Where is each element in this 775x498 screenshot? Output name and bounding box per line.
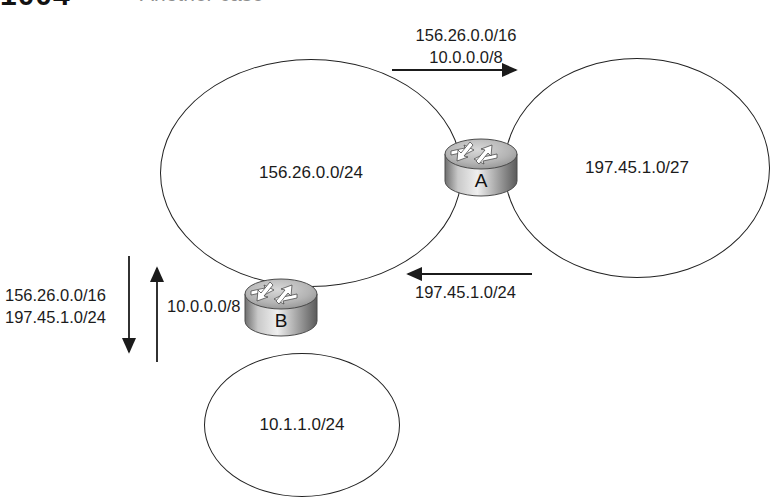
- route-label-top-line2: 10.0.0.0/8: [401, 47, 531, 69]
- route-label-middle: 197.45.1.0/24: [415, 282, 516, 304]
- network-label-left: 156.26.0.0/24: [160, 163, 462, 183]
- network-label-bottom: 10.1.1.0/24: [204, 415, 400, 435]
- arrow-down-left: [120, 254, 140, 364]
- figure-caption-text: Another case: [140, 0, 264, 6]
- route-label-router-b: 10.0.0.0/8: [167, 296, 240, 318]
- route-label-left: 156.26.0.0/16 197.45.1.0/24: [5, 285, 106, 329]
- figure-canvas: 1004 Another case 156.26.0.0/24 197.45.1…: [0, 0, 775, 498]
- router-icon: [243, 277, 319, 339]
- figure-number: 1004: [0, 0, 71, 11]
- network-label-right: 197.45.1.0/27: [504, 158, 770, 178]
- router-a[interactable]: A: [443, 137, 519, 199]
- route-label-middle-line1: 197.45.1.0/24: [415, 282, 516, 304]
- router-icon: [443, 137, 519, 199]
- router-b[interactable]: B: [243, 277, 319, 339]
- figure-caption: 1004 Another case: [0, 0, 775, 11]
- route-label-top: 156.26.0.0/16 10.0.0.0/8: [401, 25, 531, 69]
- route-label-left-line2: 197.45.1.0/24: [5, 307, 106, 329]
- route-label-top-line1: 156.26.0.0/16: [401, 25, 531, 47]
- route-label-left-line1: 156.26.0.0/16: [5, 285, 106, 307]
- route-label-router-b-line1: 10.0.0.0/8: [167, 296, 240, 318]
- arrow-up-left: [148, 262, 168, 372]
